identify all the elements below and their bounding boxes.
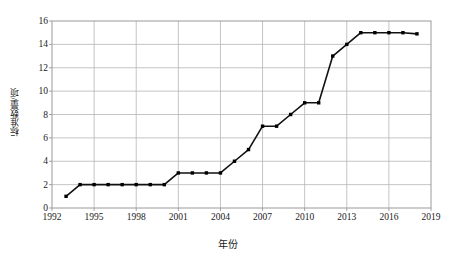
x-tick-label: 2019 (411, 212, 451, 222)
x-tick-label: 1998 (116, 212, 156, 222)
x-tick-label: 1995 (74, 212, 114, 222)
x-tick-label: 2004 (200, 212, 240, 222)
x-tick-label: 2013 (327, 212, 367, 222)
plot-area (0, 0, 455, 262)
x-tick-label: 2016 (369, 212, 409, 222)
x-tick-label: 2007 (243, 212, 283, 222)
x-tick-label: 2010 (285, 212, 325, 222)
line-chart: 标准数量/项 0246810121416 1992199519982001200… (0, 0, 455, 262)
x-axis-title: 年份 (0, 236, 455, 251)
axis-tick-marks (49, 21, 431, 211)
x-tick-label: 2001 (158, 212, 198, 222)
x-tick-label: 1992 (32, 212, 72, 222)
gridlines (52, 21, 431, 208)
